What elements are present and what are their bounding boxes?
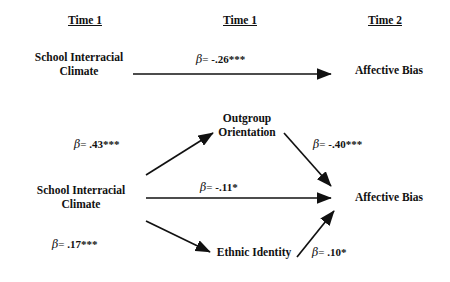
significance-stars: * (232, 181, 238, 193)
node-line-1: Outgroup (208, 112, 286, 126)
equals-symbol: = (80, 138, 89, 150)
equals-symbol: = (202, 53, 211, 65)
column-header-time1-left: Time 1 (30, 14, 140, 26)
coef-value: -.40 (328, 138, 345, 150)
equals-symbol: = (319, 138, 328, 150)
node-line-2: Climate (18, 198, 144, 212)
significance-stars: *** (229, 53, 246, 65)
node-affective-bias-top: Affective Bias (336, 64, 442, 78)
coef-ethnic-to-ab: β= .10* (312, 246, 347, 259)
significance-stars: *** (346, 138, 363, 150)
node-ethnic-identity: Ethnic Identity (209, 246, 299, 260)
equals-symbol: = (58, 238, 67, 250)
arrow-sic-to-ethnic (146, 221, 210, 252)
coef-sic-to-ab-direct: β= -.11* (200, 181, 238, 194)
coef-value: .10 (327, 246, 341, 258)
equals-symbol: = (318, 246, 327, 258)
path-diagram: Time 1 Time 1 Time 2 School Interracial … (0, 0, 450, 282)
significance-stars: *** (103, 138, 120, 150)
arrow-sic-to-outgroup (146, 133, 213, 175)
coef-value: .43 (89, 138, 103, 150)
coef-sic-to-ethnic: β= .17*** (52, 238, 98, 251)
node-school-interracial-climate-mid: School Interracial Climate (18, 184, 144, 211)
coef-outgroup-to-ab: β= -.40*** (313, 138, 362, 151)
coef-value: -.26 (211, 53, 228, 65)
equals-symbol: = (206, 181, 215, 193)
node-school-interracial-climate-top: School Interracial Climate (18, 51, 140, 78)
coef-value: .17 (67, 238, 81, 250)
node-line-1: School Interracial (18, 51, 140, 65)
column-header-time1-mid: Time 1 (190, 14, 290, 26)
column-header-time2-right: Time 2 (335, 14, 435, 26)
node-line-2: Climate (18, 65, 140, 79)
coef-sic-to-ab-total: β= -.26*** (196, 53, 245, 66)
coef-sic-to-outgroup: β= .43*** (74, 138, 120, 151)
node-affective-bias-mid: Affective Bias (336, 191, 442, 205)
node-line-1: School Interracial (18, 184, 144, 198)
coef-value: -.11 (215, 181, 232, 193)
node-line-2: Orientation (208, 126, 286, 140)
significance-stars: *** (81, 238, 98, 250)
significance-stars: * (341, 246, 347, 258)
node-outgroup-orientation: Outgroup Orientation (208, 112, 286, 139)
